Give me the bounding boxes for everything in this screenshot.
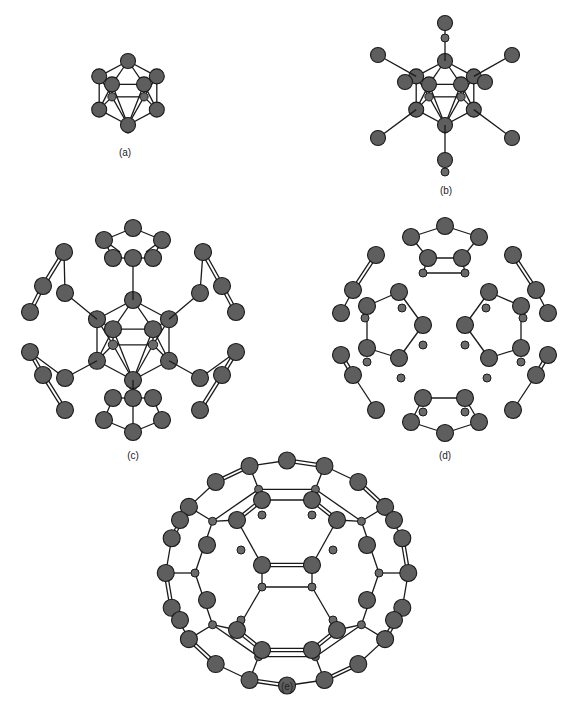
atom <box>191 569 199 577</box>
atom <box>391 284 408 301</box>
atom <box>375 569 383 577</box>
atom <box>145 321 162 338</box>
atom <box>237 546 245 554</box>
atom <box>207 656 224 673</box>
atom <box>180 631 197 648</box>
atom <box>57 370 74 387</box>
atom <box>345 367 362 384</box>
panel-label-c: (c) <box>127 450 139 461</box>
atom <box>377 631 394 648</box>
atom <box>96 412 113 429</box>
atom <box>195 244 212 261</box>
atom <box>145 250 162 267</box>
atom <box>254 492 271 509</box>
atom <box>359 298 376 315</box>
atom <box>214 367 231 384</box>
panel-label-b: (b) <box>440 185 452 196</box>
atom <box>145 390 162 407</box>
atom <box>437 218 454 235</box>
atom <box>457 390 474 407</box>
atom <box>528 282 545 299</box>
atom <box>121 54 136 69</box>
atom <box>478 75 493 90</box>
atom <box>397 374 405 382</box>
atom <box>420 250 437 267</box>
atom <box>35 367 52 384</box>
atom <box>57 285 74 302</box>
atom <box>350 656 367 673</box>
atom <box>461 269 469 277</box>
atom <box>368 247 385 264</box>
atom <box>241 458 258 475</box>
atom <box>528 367 545 384</box>
atom <box>192 402 209 419</box>
atom <box>125 220 142 237</box>
panel-a-icosahedron <box>92 54 165 134</box>
atom <box>371 48 386 63</box>
atom <box>105 250 122 267</box>
atom <box>437 425 454 442</box>
atom <box>350 473 367 490</box>
atom <box>125 250 142 267</box>
atom <box>35 278 52 295</box>
panel-d-separated-pentagons <box>333 218 557 442</box>
atom <box>415 390 432 407</box>
atom <box>513 298 530 315</box>
panel-label-d: (d) <box>439 450 451 461</box>
atom <box>105 390 122 407</box>
atom <box>471 229 488 246</box>
atom <box>199 592 216 609</box>
atom <box>400 565 417 582</box>
atom <box>345 282 362 299</box>
atom <box>505 131 520 146</box>
atom <box>425 93 433 101</box>
atom <box>359 340 376 357</box>
atom <box>540 305 557 322</box>
atom <box>121 118 136 133</box>
atom <box>125 424 142 441</box>
atom <box>505 402 522 419</box>
atom <box>172 512 189 529</box>
atom <box>258 583 266 591</box>
atom <box>308 583 316 591</box>
atom <box>519 314 527 322</box>
atom <box>108 93 116 101</box>
atom <box>441 168 449 176</box>
atom <box>359 592 376 609</box>
atom <box>137 77 152 92</box>
atom <box>172 612 189 629</box>
atom <box>386 612 403 629</box>
panel-label-a: (a) <box>119 147 131 158</box>
atom <box>329 546 337 554</box>
atom <box>454 250 471 267</box>
atom <box>157 565 174 582</box>
atom <box>57 402 74 419</box>
atom <box>214 278 231 295</box>
atom <box>419 341 427 349</box>
atom <box>461 408 469 416</box>
atom <box>329 622 346 639</box>
atom <box>199 537 216 554</box>
atom <box>398 304 406 312</box>
atom <box>228 344 245 361</box>
atom <box>304 492 321 509</box>
atom <box>154 412 171 429</box>
panel-b-substituted-icosahedron <box>371 16 520 177</box>
atom <box>22 304 39 321</box>
atom <box>316 458 333 475</box>
fullerene-assembly-figure <box>0 0 575 716</box>
atom <box>229 622 246 639</box>
atom <box>357 517 365 525</box>
atom <box>371 131 386 146</box>
panel-e-c60-fullerene <box>157 452 417 694</box>
atom <box>254 557 271 574</box>
atom <box>483 374 491 382</box>
atom <box>308 511 316 519</box>
atom <box>207 473 224 490</box>
atom <box>419 408 427 416</box>
atom <box>438 153 453 168</box>
atom <box>140 93 148 101</box>
atom <box>482 304 490 312</box>
atom <box>96 232 113 249</box>
atom <box>540 347 557 364</box>
